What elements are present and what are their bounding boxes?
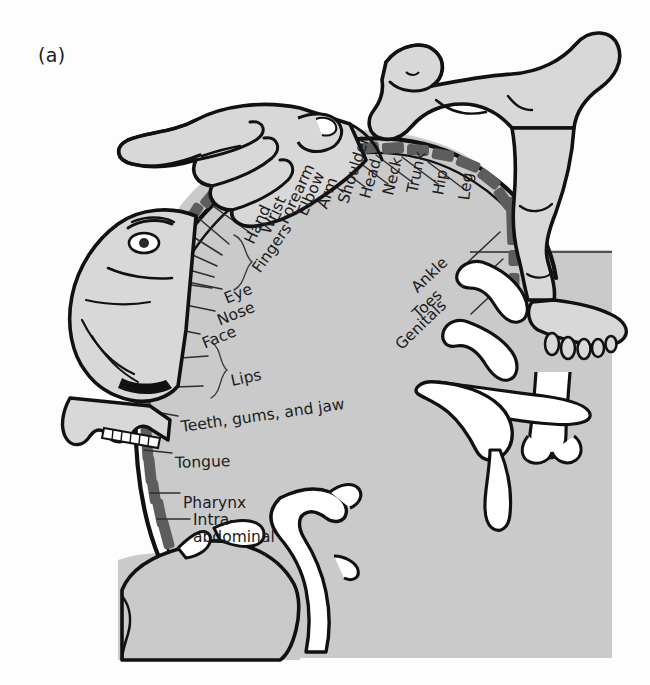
label-intra-abdominal: Intra- abdominal <box>193 512 275 547</box>
torso-outline <box>369 33 620 140</box>
label-pharynx: Pharynx <box>183 494 246 512</box>
homunculus-face <box>70 210 196 401</box>
strip-segment <box>382 142 405 154</box>
label-tongue: Tongue <box>175 452 231 472</box>
homunculus-illustration <box>0 0 650 685</box>
label-intra-abdominal-line2: abdominal <box>193 529 275 546</box>
figure-panel: (a) <box>0 0 650 685</box>
face-pupil <box>139 238 149 248</box>
label-intra-abdominal-line1: Intra- <box>193 512 275 529</box>
label-leg: Leg <box>455 171 477 201</box>
